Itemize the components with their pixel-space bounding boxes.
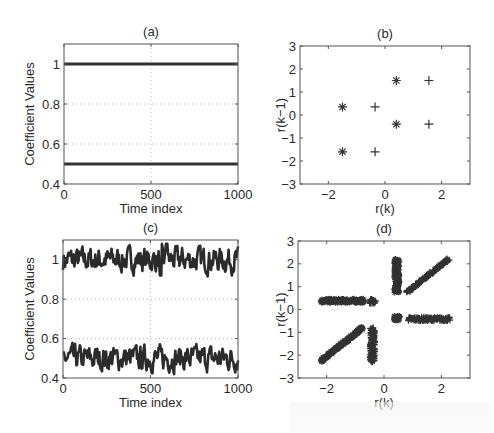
x-tick-label: 2 xyxy=(438,187,445,202)
y-tick-label: 0.4 xyxy=(41,371,59,386)
cluster xyxy=(318,296,367,306)
x-tick-label: −2 xyxy=(319,381,334,396)
cluster xyxy=(318,324,366,365)
series-line-2 xyxy=(63,343,238,374)
x-tick-label: 0 xyxy=(380,381,387,396)
star-marker xyxy=(338,147,347,156)
plus-marker xyxy=(424,76,433,85)
subplot-d: −202−3−2−10123(d)r(k)r(k−1) xyxy=(273,221,470,410)
x-axis-label: Time index xyxy=(119,201,183,216)
subplot-title: (a) xyxy=(143,24,159,39)
star-marker xyxy=(392,120,401,129)
figure: 050010000.40.60.81(a)Time indexCoefficie… xyxy=(0,0,494,433)
x-tick-label: 1000 xyxy=(224,187,253,202)
y-tick-label: 1 xyxy=(289,85,296,100)
y-tick-label: 0 xyxy=(289,108,296,123)
plus-marker xyxy=(371,102,380,111)
x-tick-label: 2 xyxy=(438,381,445,396)
y-axis-label: r(k−1) xyxy=(273,98,288,132)
y-tick-label: 1 xyxy=(287,279,294,294)
subplot-title: (d) xyxy=(376,221,392,236)
y-tick-label: 2 xyxy=(289,62,296,77)
y-axis-label: r(k−1) xyxy=(273,292,288,326)
y-tick-label: 3 xyxy=(287,234,294,249)
star-marker xyxy=(392,317,398,323)
y-axis-label: Coefficient Values xyxy=(22,62,37,166)
plus-marker xyxy=(424,120,433,129)
plus-marker xyxy=(371,147,380,156)
page-bleed-through xyxy=(290,402,490,432)
subplot-title: (b) xyxy=(377,26,393,41)
x-axis-label: Time index xyxy=(119,395,183,410)
y-tick-label: 3 xyxy=(289,39,296,54)
star-marker xyxy=(392,76,401,85)
x-axis-label: r(k) xyxy=(375,201,395,216)
star-marker xyxy=(359,324,365,330)
subplot-b: −202−3−2−10123(b)r(k)r(k−1) xyxy=(273,26,470,216)
y-tick-label: 0.6 xyxy=(41,331,59,346)
y-tick-label: 1 xyxy=(52,252,59,267)
x-tick-label: 500 xyxy=(140,187,162,202)
y-tick-label: −3 xyxy=(279,371,294,386)
y-tick-label: 0.8 xyxy=(42,97,60,112)
cluster xyxy=(367,296,379,307)
y-axis-label: Coefficient Values xyxy=(22,257,37,361)
y-tick-label: −2 xyxy=(279,348,294,363)
cluster xyxy=(405,314,453,324)
y-tick-label: 0.4 xyxy=(42,177,60,192)
cluster xyxy=(391,313,403,323)
x-tick-label: 0 xyxy=(60,187,67,202)
y-tick-label: 0.8 xyxy=(41,292,59,307)
subplot-title: (c) xyxy=(143,220,158,235)
y-tick-label: −3 xyxy=(281,177,296,192)
subplot-c: 050010000.40.60.81(c)Time indexCoefficie… xyxy=(22,220,252,410)
star-marker xyxy=(338,102,347,111)
x-tick-label: −2 xyxy=(321,187,336,202)
subplot-a: 050010000.40.60.81(a)Time indexCoefficie… xyxy=(22,24,252,216)
y-tick-label: 1 xyxy=(53,57,60,72)
x-tick-label: 0 xyxy=(381,187,388,202)
x-tick-label: 500 xyxy=(140,381,162,396)
y-tick-label: 2 xyxy=(287,256,294,271)
x-tick-label: 0 xyxy=(59,381,66,396)
axes-frame xyxy=(300,46,470,184)
y-tick-label: 0.6 xyxy=(42,137,60,152)
cluster xyxy=(403,255,452,295)
y-tick-label: −2 xyxy=(281,154,296,169)
cluster xyxy=(367,325,378,366)
cluster xyxy=(391,256,402,296)
x-tick-label: 1000 xyxy=(224,381,253,396)
